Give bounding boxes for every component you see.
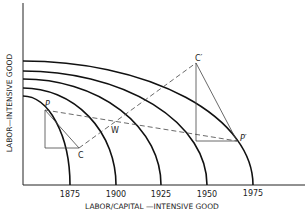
- x-tick-1950: 1950: [197, 190, 217, 199]
- point-label-P-prime: P′: [240, 134, 247, 143]
- dashed-line-P-to-Pprime: [45, 110, 237, 141]
- point-label-C-prime: C′: [195, 54, 203, 63]
- x-tick-1925: 1925: [151, 190, 171, 199]
- dashed-line-C-to-Cprime: [79, 63, 196, 148]
- point-label-C: C: [78, 151, 84, 160]
- point-label-P: P: [45, 100, 50, 109]
- point-label-W: W: [111, 126, 119, 135]
- triangle-left-hypotenuse: [45, 110, 79, 148]
- ppf-curve-1925: [23, 79, 161, 185]
- production-possibility-diagram: P C W C′ P′ 1875 1900 1925 1950 1975 LAB…: [0, 0, 307, 212]
- ppf-curve-1875: [23, 96, 70, 185]
- x-tick-1875: 1875: [60, 190, 80, 199]
- x-tick-1975: 1975: [243, 189, 263, 198]
- y-axis-title: LABOR—INTENSIVE GOOD: [5, 54, 14, 153]
- triangle-right-hypotenuse: [196, 63, 237, 141]
- x-tick-1900: 1900: [106, 190, 126, 199]
- x-axis-title: LABOR/CAPITAL —INTENSIVE GOOD: [85, 202, 219, 211]
